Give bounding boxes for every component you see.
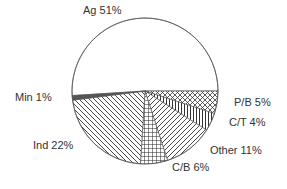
label-ind: Ind 22% — [33, 139, 73, 151]
label-other: Other 11% — [210, 144, 262, 156]
slice-ind — [73, 91, 145, 164]
label-ct: C/T 4% — [229, 116, 265, 128]
label-ag: Ag 51% — [83, 4, 122, 16]
label-min: Min 1% — [15, 91, 52, 103]
slice-ag — [72, 18, 218, 96]
pie-slices — [72, 18, 218, 164]
label-cb: C/B 6% — [172, 161, 209, 173]
label-pb: P/B 5% — [234, 96, 271, 108]
